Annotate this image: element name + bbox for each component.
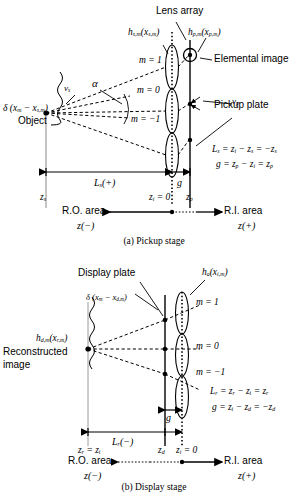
hd-function-label: hd,m(xr,m) <box>36 334 67 344</box>
ray-bundle-display <box>88 305 200 390</box>
lens-array-label: Lens array <box>156 6 203 16</box>
m-minus1-label-pickup: m = −1 <box>131 115 160 125</box>
Lr-span-label: Lr(−) <box>112 437 133 448</box>
alpha-angle-arc <box>124 94 129 124</box>
delta-display-label: δ (xm − xd,m) <box>86 293 127 302</box>
reconstruction-wave-icon <box>90 297 95 369</box>
pickup-equation-1: Ls = zi − zs = −zs <box>212 145 277 155</box>
ro-ri-axis-display <box>118 460 222 464</box>
vp-arrow-group <box>191 97 200 110</box>
pickup-equation-2: g = zp − zi = zp <box>216 160 273 170</box>
ro-area-label-display: R.O. area <box>68 456 111 466</box>
zd-tick-label: zd <box>158 446 165 456</box>
display-equation-1: Lr = zr − zi = zr <box>210 387 268 397</box>
g-span-label-pickup: g <box>177 178 182 188</box>
display-plate-label: Display plate <box>78 268 135 278</box>
display-equation-2: g = zi − zd = −zd <box>212 403 275 413</box>
vs-label: vs <box>64 84 70 94</box>
display-caption: (b) Display stage <box>0 482 308 492</box>
zi-tick-label-display: zi = 0 <box>176 446 197 456</box>
m-zero-label-display: m = 0 <box>196 342 219 352</box>
m-zero-label-pickup: m = 0 <box>137 86 160 96</box>
ro-ri-axis-pickup <box>110 210 222 214</box>
ri-area-label-pickup: R.I. area <box>224 206 262 216</box>
m-minus1-label-display: m = −1 <box>196 368 225 378</box>
pickup-stage-figure: Lens array hs,m(xs,m) hp,m(xp,m) Element… <box>0 0 308 250</box>
ri-area-label-display: R.I. area <box>224 456 262 466</box>
reconstructed-label-line1: Reconstructed <box>3 347 67 357</box>
hp-function-label: hp,m(xp,m) <box>188 28 221 38</box>
ro-axis-label-display: z(−) <box>84 471 101 481</box>
zi-tick-label-pickup: zi = 0 <box>149 193 170 203</box>
hs-function-label: hs,m(xs,m) <box>128 28 159 38</box>
ri-axis-label-display: z(+) <box>238 471 255 481</box>
ro-axis-label-pickup: z(−) <box>77 221 94 231</box>
g-span-label-display: g <box>166 413 171 423</box>
m-plus1-label-display: m = 1 <box>196 298 219 308</box>
leader-lines-pickup <box>66 22 232 146</box>
display-stage-figure: Display plate ha(xi,m) δ (xm − xd,m) m =… <box>0 250 308 496</box>
Ls-span-label: Ls(+) <box>94 178 115 189</box>
leader-lines-display <box>135 280 205 316</box>
object-label: Object <box>18 116 47 126</box>
zs-tick-label: zs <box>40 193 46 203</box>
alpha-label: α <box>92 78 98 89</box>
ha-function-label: ha(xi,m) <box>202 268 228 278</box>
ri-axis-label-pickup: z(+) <box>238 221 255 231</box>
vp-label: vp <box>232 97 239 107</box>
pickup-plate-label: Pickup plate <box>214 100 268 110</box>
m-plus1-label-pickup: m = 1 <box>139 56 162 66</box>
ro-area-label-pickup: R.O. area <box>62 206 105 216</box>
Lr-dimension-display <box>88 428 182 436</box>
reconstructed-label-line2: image <box>3 360 30 370</box>
zp-tick-label: zp <box>186 193 193 203</box>
pickup-caption: (a) Pickup stage <box>0 236 308 246</box>
delta-object-label: δ (xm − xs,m) <box>3 104 48 114</box>
elemental-image-label: Elemental image <box>214 54 288 64</box>
